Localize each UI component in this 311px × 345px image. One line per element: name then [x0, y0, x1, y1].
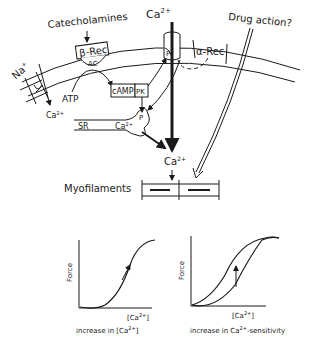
channel-sr-arrow: [148, 60, 180, 110]
myofilaments-sarcomere: [142, 180, 219, 200]
camp-label: cAMP: [112, 87, 134, 96]
na-label: Na+: [9, 60, 31, 81]
ac-label: AC: [88, 60, 98, 68]
catecholamines-label: Catecholamines: [47, 11, 128, 30]
ca-top-label: Ca2+: [146, 7, 171, 21]
exchanger-ca-label: Ca2+: [46, 110, 64, 120]
myofilaments-label: Myofilaments: [64, 183, 131, 194]
graph1-ylabel: Force: [66, 263, 74, 282]
pk-label: PK: [136, 88, 145, 96]
diagram-canvas: Na+ Ca2+ Catecholamines β-Rec AC ATP cAM…: [0, 0, 311, 345]
sr-p-label: P: [139, 114, 143, 122]
graph-increase-ca: [79, 240, 155, 308]
graph2-caption: increase in Ca2+-sensitivity: [190, 325, 285, 335]
ca-mid-label: Ca2+: [164, 155, 186, 167]
graph1-caption: increase in [Ca2+]: [76, 325, 139, 335]
pk-channel-arrow: [148, 58, 166, 86]
sr-release-arrow: [142, 132, 165, 148]
atp-label: ATP: [62, 94, 79, 104]
graph1-xlabel: [Ca2+]: [127, 312, 149, 322]
cell-membrane: [22, 48, 300, 96]
graph-increase-sensitivity: [191, 236, 279, 306]
graph2-ylabel: Force: [178, 261, 186, 280]
sr-label: SR: [78, 122, 89, 131]
channel-p-label: P: [166, 50, 170, 58]
alpha-rec-label: α-Rec: [196, 46, 224, 57]
drug-action-label: Drug action?: [228, 11, 293, 29]
sr-ca-label: Ca2+: [115, 121, 133, 131]
graph2-xlabel: [Ca2+]: [232, 310, 254, 320]
